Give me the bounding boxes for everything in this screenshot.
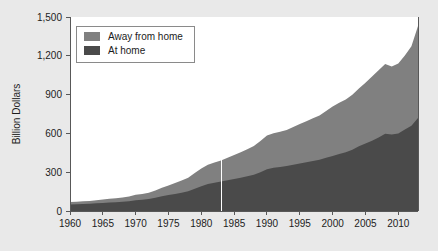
chart-legend: Away from home At home [76, 26, 194, 62]
stacked-area-chart: 03006009001,2001,500 1960196519701975198… [0, 0, 438, 251]
y-tick-label: 0 [56, 206, 62, 217]
y-tick-label: 600 [45, 128, 62, 139]
x-tick-label: 1980 [190, 218, 213, 229]
y-tick-label: 900 [45, 89, 62, 100]
x-tick-label: 1975 [157, 218, 180, 229]
x-tick-label: 2005 [354, 218, 377, 229]
x-tick-label: 2000 [322, 218, 345, 229]
x-tick-label: 1965 [92, 218, 115, 229]
y-tick-label: 1,200 [37, 50, 62, 61]
y-tick-label: 1,500 [37, 12, 62, 23]
x-tick-label: 1990 [256, 218, 279, 229]
legend-label-at-home: At home [108, 45, 146, 56]
legend-swatch-at-home [84, 46, 100, 55]
chart-container: 03006009001,2001,500 1960196519701975198… [0, 0, 438, 251]
legend-label-away-from-home: Away from home [108, 31, 183, 42]
x-tick-label: 1960 [59, 218, 82, 229]
x-tick-label: 1995 [289, 218, 312, 229]
legend-swatch-away-from-home [84, 32, 100, 41]
y-axis-title: Billion Dollars [11, 84, 22, 145]
x-tick-label: 1985 [223, 218, 246, 229]
y-tick-label: 300 [45, 167, 62, 178]
x-tick-label: 1970 [125, 218, 148, 229]
x-tick-label: 2010 [387, 218, 410, 229]
